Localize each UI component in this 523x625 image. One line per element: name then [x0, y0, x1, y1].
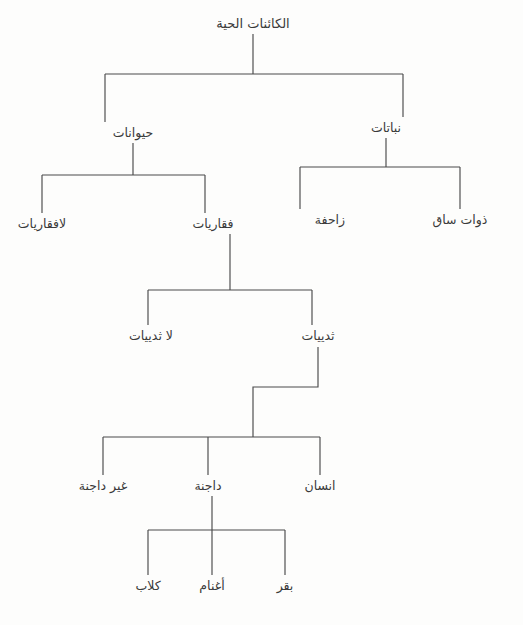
- tree-node-human: انسان: [304, 478, 335, 493]
- tree-node-stemmed: ذوات ساق: [433, 212, 488, 228]
- tree-node-dogs: كلاب: [135, 578, 160, 593]
- tree-node-plants: نباتات: [371, 120, 401, 135]
- label-layer: الكائنات الحيةحيواناتنباتاتلافقارياتفقار…: [18, 16, 488, 594]
- tree-connector-mammals-jog: [253, 347, 318, 437]
- tree-node-mammals: ثدييات: [302, 328, 335, 343]
- tree-node-sheep: أغنام: [199, 577, 224, 593]
- tree-node-creeping: زاحفة: [315, 212, 345, 228]
- classification-tree-diagram: الكائنات الحيةحيواناتنباتاتلافقارياتفقار…: [0, 0, 523, 625]
- tree-node-domestic: داجنة: [194, 478, 221, 493]
- tree-node-invertebrates: لافقاريات: [18, 216, 66, 232]
- tree-node-living: الكائنات الحية: [216, 16, 289, 31]
- tree-node-non-mammals: لا ثدييات: [129, 328, 173, 343]
- tree-canvas: الكائنات الحيةحيواناتنباتاتلافقارياتفقار…: [0, 0, 523, 625]
- connector-layer: [42, 34, 460, 575]
- tree-node-vertebrates: فقاريات: [192, 216, 233, 232]
- tree-node-non-domestic: غير داجنة: [79, 478, 128, 494]
- tree-node-cattle: بقر: [276, 578, 294, 594]
- tree-node-animals: حيوانات: [113, 125, 154, 141]
